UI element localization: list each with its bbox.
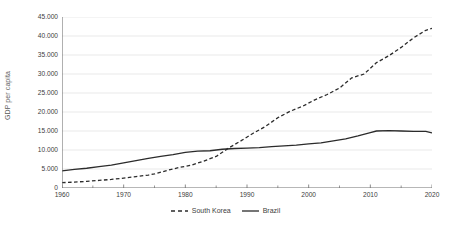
series-line-south-korea <box>62 28 432 182</box>
y-axis-tick-label: 25.000 <box>24 90 58 97</box>
y-axis-tick-label: 15.000 <box>24 128 58 135</box>
y-axis-tick-label: 30.000 <box>24 71 58 78</box>
chart-legend: South KoreaBrazil <box>0 207 451 214</box>
gridlines <box>62 17 432 169</box>
series-lines <box>62 28 432 182</box>
plot-area <box>62 17 432 188</box>
x-axis-tick-label: 1960 <box>55 192 70 199</box>
y-axis-tick-label: 10.000 <box>24 147 58 154</box>
x-axis-tick-label: 1990 <box>240 192 255 199</box>
x-axis-tick-label: 2000 <box>301 192 316 199</box>
y-axis-tick-label: 0 <box>24 185 58 192</box>
legend-label: South Korea <box>192 207 231 214</box>
y-axis-tick-label: 35.000 <box>24 52 58 59</box>
x-axis-tick-label: 1970 <box>116 192 131 199</box>
legend-swatch-dashed <box>171 208 188 214</box>
x-axis-major-ticks <box>62 185 432 189</box>
y-axis-title-label: GDP per capita <box>5 70 12 119</box>
y-axis-tick-label: 40.000 <box>24 33 58 40</box>
y-axis-tick-label: 45.000 <box>24 14 58 21</box>
x-axis-tick-label: 2010 <box>363 192 378 199</box>
x-axis-tick-labels: 1960197019801990200020102020 <box>0 192 451 204</box>
x-axis-tick-label: 1980 <box>178 192 193 199</box>
legend-label: Brazil <box>263 207 281 214</box>
y-axis-tick-label: 20.000 <box>24 109 58 116</box>
y-axis-tick-label: 5.000 <box>24 166 58 173</box>
y-axis-title: GDP per capita <box>0 0 16 190</box>
gdp-per-capita-line-chart: GDP per capita 45.00040.00035.00030.0002… <box>0 0 451 231</box>
x-axis-tick-label: 2020 <box>425 192 440 199</box>
legend-swatch-solid <box>242 208 259 214</box>
legend-item-south-korea[interactable]: South Korea <box>171 207 231 214</box>
legend-item-brazil[interactable]: Brazil <box>242 207 281 214</box>
plot-svg <box>62 17 432 188</box>
